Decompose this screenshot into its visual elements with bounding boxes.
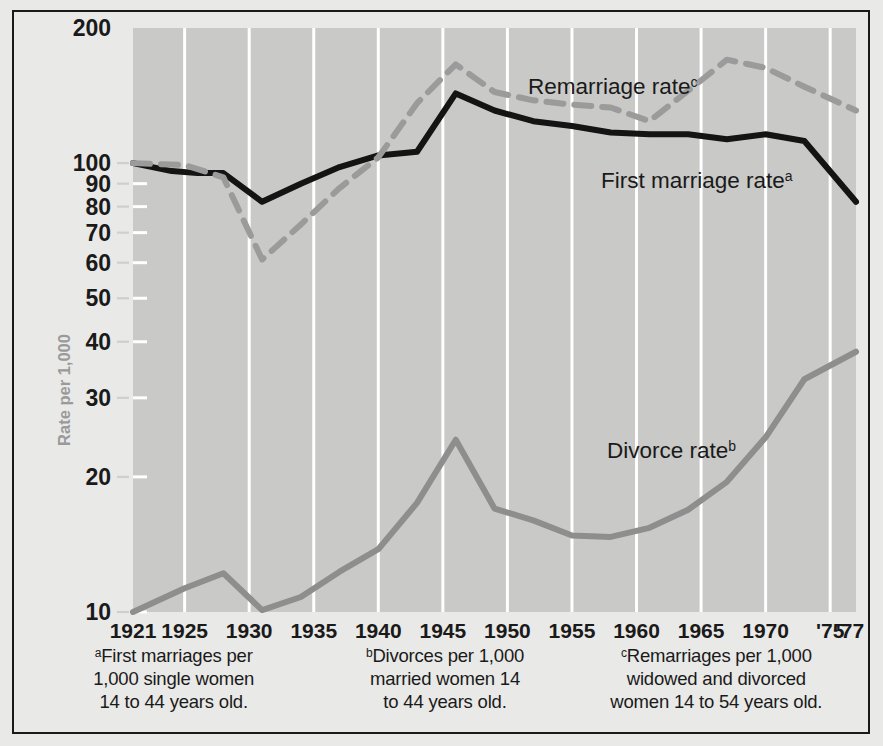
footnote-line: to 44 years old. [311,690,578,713]
footnote-marker: c [621,646,627,660]
x-tick-label-1965: 1965 [678,619,725,642]
footnote-line: 1,000 single women [40,667,307,690]
footnote-line: 14 to 44 years old. [40,690,307,713]
y-tick-label-20: 20 [85,464,111,490]
x-tick-label-1955: 1955 [549,619,596,642]
x-tick-label-1930: 1930 [226,619,273,642]
annotation-divorce: Divorce rateb [607,438,736,463]
y-tick-label-60: 60 [85,250,111,276]
x-tick-label-1970: 1970 [742,619,789,642]
x-tick-label-1921: 1921 [110,619,157,642]
y-tick-label-70: 70 [85,220,111,246]
y-tick-label-50: 50 [85,285,111,311]
x-tick-label-1945: 1945 [419,619,466,642]
chart-page: 200100908070605040302010 192119251930193… [0,0,883,746]
y-tick-label-80: 80 [85,194,111,220]
footnotes-row: aFirst marriages per1,000 single women14… [40,644,850,713]
x-tick-label-1940: 1940 [355,619,402,642]
y-axis-title: Rate per 1,000 [55,334,73,446]
footnote-line: women 14 to 54 years old. [583,690,850,713]
y-tick-label-200: 200 [73,15,111,41]
x-tick-label-1950: 1950 [484,619,531,642]
footnote-c: cRemarriages per 1,000widowed and divorc… [583,644,850,713]
footnote-marker: a [95,646,101,660]
y-tick-label-40: 40 [85,329,111,355]
marriage-divorce-rate-chart: 200100908070605040302010 192119251930193… [0,0,883,746]
annotation-first-marriage: First marriage ratea [601,168,793,193]
footnote-line: widowed and divorced [583,667,850,690]
annotation-remarriage: Remarriage ratec [528,74,698,99]
footnote-line: bDivorces per 1,000 [311,644,578,667]
x-tick-label-1925: 1925 [161,619,208,642]
y-tick-label-30: 30 [85,385,111,411]
y-axis-tick-labels: 200100908070605040302010 [73,15,111,625]
x-axis-tick-labels: 1921192519301935194019451950195519601965… [110,619,865,642]
y-tick-label-10: 10 [85,599,111,625]
footnote-line: aFirst marriages per [40,644,307,667]
plot-area-background [133,28,856,612]
footnote-line: cRemarriages per 1,000 [583,644,850,667]
footnote-marker: b [366,646,372,660]
x-tick-label-1935: 1935 [290,619,337,642]
x-tick-label-77: '77 [836,619,864,642]
footnote-line: married women 14 [311,667,578,690]
footnote-a: aFirst marriages per1,000 single women14… [40,644,307,713]
footnote-b: bDivorces per 1,000married women 14to 44… [311,644,578,713]
x-tick-label-1960: 1960 [613,619,660,642]
